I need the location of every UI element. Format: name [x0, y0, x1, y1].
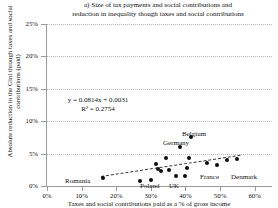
gridline-horizontal [47, 89, 272, 90]
y-axis-tick [41, 121, 46, 122]
x-axis-tick [255, 186, 256, 191]
regression-equation: y = 0.0814x + 0.0031 [44, 96, 152, 105]
x-axis-tick-label: 0% [32, 192, 62, 199]
y-axis-tick-label: 0% [10, 182, 38, 189]
data-point [167, 168, 171, 172]
data-point-label: Romania [65, 177, 90, 185]
data-point-label: UK [169, 182, 179, 190]
y-axis-tick-label: 20% [10, 52, 38, 59]
y-axis-tick-label: 15% [10, 85, 38, 92]
chart-title: a) Size of tax payments and social contr… [40, 1, 276, 18]
x-axis-tick [185, 186, 186, 191]
x-axis-tick [82, 186, 83, 191]
data-point [205, 161, 209, 165]
data-point-label: Poland [140, 182, 159, 190]
chart-container: a) Size of tax payments and social contr… [0, 0, 278, 208]
data-point [154, 162, 158, 166]
data-point [174, 174, 178, 178]
y-axis-tick [41, 186, 46, 187]
chart-title-line-2: reduction in inequality though taxes and… [40, 10, 276, 19]
data-point [185, 166, 189, 170]
x-axis-tick [47, 186, 48, 191]
gridline-horizontal [47, 24, 272, 25]
y-axis-tick [41, 154, 46, 155]
x-axis-tick-label: 50% [205, 192, 235, 199]
x-axis-tick-label: 40% [170, 192, 200, 199]
y-axis-tick-label: 25% [10, 20, 38, 27]
x-axis-tick-label: 20% [101, 192, 131, 199]
gridline-horizontal [47, 121, 272, 122]
x-axis-tick-label: 30% [136, 192, 166, 199]
gridline-horizontal [47, 56, 272, 57]
y-axis-tick [41, 24, 46, 25]
y-axis-tick-label: 10% [10, 117, 38, 124]
data-point-label: Germany [163, 139, 189, 147]
regression-r2: R² = 0.2754 [44, 105, 152, 114]
data-point-label: Belgium [182, 130, 206, 138]
data-point-label: Denmark [231, 173, 257, 181]
x-axis-tick [220, 186, 221, 191]
y-axis-tick [41, 56, 46, 57]
data-point-label: France [200, 173, 219, 181]
x-axis-tick-label: 60% [240, 192, 270, 199]
y-axis-tick [41, 89, 46, 90]
x-axis-tick-label: 10% [67, 192, 97, 199]
chart-title-line-1: a) Size of tax payments and social contr… [40, 1, 276, 10]
x-axis-tick [116, 186, 117, 191]
regression-annotation: y = 0.0814x + 0.0031 R² = 0.2754 [44, 96, 152, 114]
x-axis-title: Taxes and social contributions paid as a… [20, 200, 278, 208]
y-axis-tick-label: 5% [10, 150, 38, 157]
